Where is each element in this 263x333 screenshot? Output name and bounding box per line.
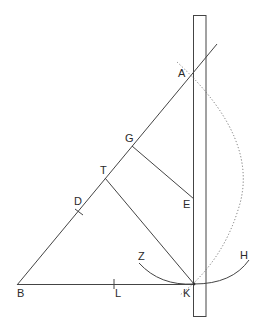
label-A: A (178, 68, 185, 79)
label-G: G (125, 133, 134, 144)
line-BA (17, 44, 217, 285)
diagram-svg (0, 0, 263, 333)
line-TK (105, 178, 194, 284)
point-K (193, 283, 196, 286)
label-Z: Z (138, 251, 145, 262)
diagram-canvas: A G T D E Z H B L K (0, 0, 263, 333)
label-B: B (17, 288, 24, 299)
label-T: T (100, 165, 107, 176)
dotted-arc (177, 62, 243, 295)
line-GE (132, 146, 194, 199)
label-K: K (183, 288, 190, 299)
label-L: L (115, 288, 121, 299)
label-D: D (74, 196, 82, 207)
label-E: E (183, 199, 190, 210)
label-H: H (240, 250, 248, 261)
